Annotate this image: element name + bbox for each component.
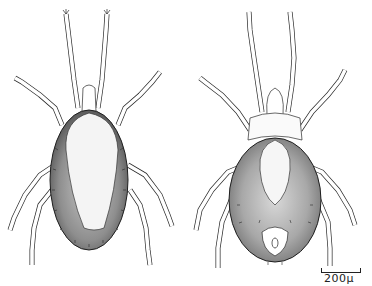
mite-illustration (0, 0, 372, 286)
dorsal-leg-i-right (98, 9, 110, 108)
dorsal-view (10, 9, 172, 265)
dorsal-leg-i-left (63, 9, 78, 108)
scale-bar-label: 200μ (324, 272, 354, 285)
ventral-coxae (248, 113, 302, 140)
dorsal-leg-iv-right (130, 190, 150, 265)
dorsal-leg-ii-left (15, 78, 62, 125)
dorsal-leg-ii-right (118, 72, 160, 125)
dorsal-gnathosoma (82, 85, 96, 112)
ventral-leg-i-right (288, 12, 294, 112)
ventral-gnathosoma (267, 88, 284, 115)
ventral-view (196, 12, 355, 268)
scale-bar: 200μ (320, 268, 362, 284)
ventral-leg-ii-right (300, 70, 345, 130)
ventral-leg-i-left (249, 12, 262, 112)
ventral-leg-ii-left (200, 78, 250, 130)
dorsal-leg-iv-left (32, 190, 52, 265)
